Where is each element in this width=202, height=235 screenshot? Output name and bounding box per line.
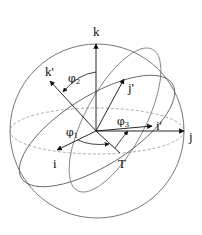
label-phi2: φ2 [68,72,80,86]
label-phi1: φ1 [66,126,78,140]
label-j-prime: j' [127,80,134,95]
line-of-nodes [96,131,120,153]
label-phi3: φ3 [117,115,129,129]
k-prime-axis [50,81,96,131]
label-k: k [93,24,100,39]
phi3-arc [115,131,128,148]
label-j: j [188,129,193,144]
label-i: i [53,156,57,171]
label-T: T [118,156,126,171]
euler-angle-diagram: k k' j' j i' i T φ1 φ2 φ3 [0,0,202,235]
label-i-prime: i' [156,118,162,133]
phi1-arc [78,140,109,145]
label-k-prime: k' [45,64,54,79]
